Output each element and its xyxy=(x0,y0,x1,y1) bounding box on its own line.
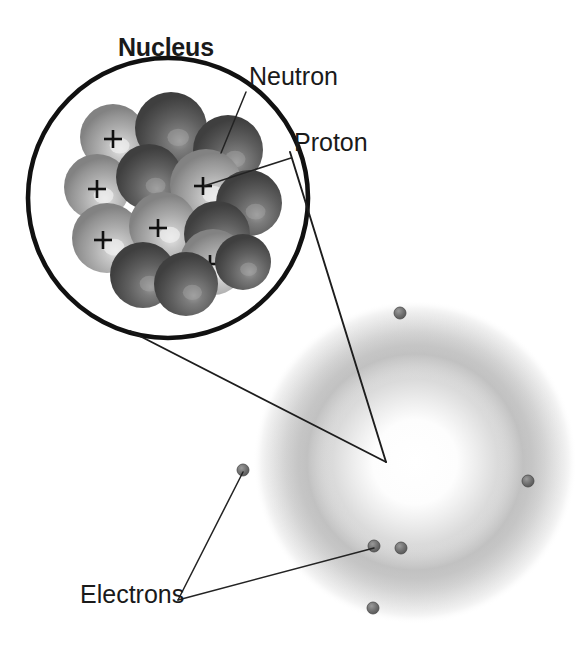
neutron-body xyxy=(154,252,218,316)
sphere-highlight xyxy=(240,263,257,276)
neutron-sphere xyxy=(215,234,271,290)
electron-cloud xyxy=(253,300,577,624)
electron-dot xyxy=(522,475,534,487)
sphere-highlight xyxy=(183,285,202,300)
label-proton: Proton xyxy=(294,128,368,156)
sphere-highlight xyxy=(146,178,166,194)
electron-dot xyxy=(394,307,406,319)
label-neutron: Neutron xyxy=(249,62,338,90)
sphere-highlight xyxy=(167,129,189,146)
neutron-body xyxy=(215,234,271,290)
neutron-sphere xyxy=(154,252,218,316)
electron-dot xyxy=(395,542,407,554)
electron-dot xyxy=(367,602,379,614)
sphere-highlight xyxy=(246,204,266,220)
electron-dot xyxy=(368,540,380,552)
atom-diagram: Nucleus Neutron Proton Electrons xyxy=(0,0,585,657)
label-electrons: Electrons xyxy=(80,580,184,608)
diagram-canvas: Nucleus Neutron Proton Electrons xyxy=(0,0,585,657)
electron-cloud-ring xyxy=(265,312,565,612)
label-nucleus: Nucleus xyxy=(118,33,214,61)
electron-leader-line-left xyxy=(178,472,243,600)
electron-dot xyxy=(237,464,249,476)
